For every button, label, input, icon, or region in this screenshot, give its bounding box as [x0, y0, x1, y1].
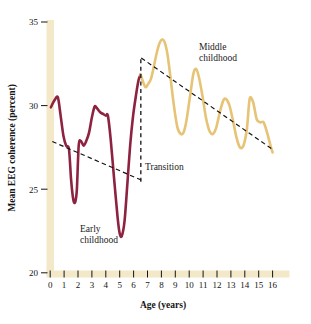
x-tick-label: 2 [76, 280, 81, 290]
middle-childhood-label-line1: Middle [199, 42, 226, 52]
x-tick-label: 15 [254, 280, 264, 290]
early-childhood-curve [51, 75, 141, 237]
chart-canvas: 35 30 25 20 Mean EEG coherence (percent) [0, 0, 311, 324]
y-tick-label: 30 [29, 101, 39, 111]
x-axis-band [47, 271, 290, 278]
middle-childhood-label-line2: childhood [199, 53, 237, 63]
y-tick-label: 25 [29, 185, 39, 195]
x-tick-label: 5 [117, 280, 122, 290]
y-axis-band [47, 20, 55, 276]
x-axis-title: Age (years) [140, 300, 186, 311]
x-tick-label: 14 [240, 280, 250, 290]
y-axis-tick-labels: 35 30 25 20 [29, 17, 39, 278]
x-tick-label: 10 [185, 280, 195, 290]
y-tick-label: 20 [29, 268, 39, 278]
y-tick-label: 35 [29, 17, 39, 27]
x-axis-tick-labels: 0 1 2 3 4 5 6 7 8 9 10 11 12 13 14 15 16 [48, 280, 278, 290]
middle-childhood-annotation: Middle childhood [199, 42, 237, 63]
x-tick-label: 8 [159, 280, 164, 290]
x-tick-label: 12 [213, 280, 222, 290]
x-tick-label: 13 [226, 280, 236, 290]
x-tick-label: 7 [145, 280, 150, 290]
early-childhood-label-line1: Early [80, 224, 101, 234]
early-childhood-label-line2: childhood [80, 235, 118, 245]
x-tick-label: 0 [48, 280, 53, 290]
y-axis-title: Mean EEG coherence (percent) [7, 84, 18, 212]
x-tick-label: 9 [173, 280, 178, 290]
x-tick-label: 4 [104, 280, 109, 290]
early-childhood-annotation: Early childhood [80, 224, 118, 245]
x-tick-label: 6 [131, 280, 136, 290]
x-tick-label: 16 [268, 280, 278, 290]
eeg-coherence-figure: 35 30 25 20 Mean EEG coherence (percent) [0, 0, 311, 324]
x-tick-label: 3 [90, 280, 95, 290]
x-tick-label: 1 [62, 280, 67, 290]
x-tick-label: 11 [199, 280, 208, 290]
transition-label: Transition [145, 162, 184, 172]
